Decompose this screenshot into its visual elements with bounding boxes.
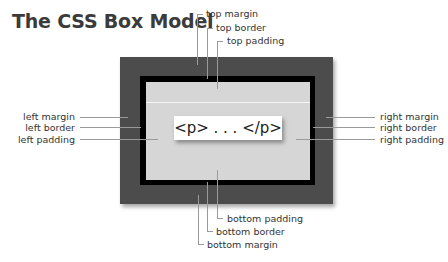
- padding-highlight-line: [146, 102, 310, 103]
- bottom-border-leader-h: [207, 231, 213, 232]
- label-left-padding: left padding: [18, 134, 75, 145]
- left-border-leader: [80, 127, 141, 128]
- top-border-leader-v: [207, 28, 208, 79]
- left-margin-leader: [80, 117, 128, 118]
- bottom-padding-leader-h: [217, 218, 223, 219]
- bottom-margin-leader-v: [198, 195, 199, 245]
- label-top-border: top border: [216, 22, 266, 33]
- label-right-padding: right padding: [380, 134, 444, 145]
- label-top-padding: top padding: [227, 35, 284, 46]
- top-margin-leader-v: [197, 14, 198, 65]
- left-padding-leader: [80, 139, 158, 140]
- right-padding-leader: [296, 139, 375, 140]
- right-border-leader: [313, 127, 375, 128]
- label-left-margin: left margin: [23, 111, 75, 122]
- label-left-border: left border: [25, 122, 75, 133]
- content-text: <p> . . . </p>: [174, 119, 282, 137]
- label-bottom-border: bottom border: [216, 226, 285, 237]
- content-element: <p> . . . </p>: [174, 116, 282, 140]
- bottom-padding-leader-v: [217, 170, 218, 219]
- top-padding-leader-v: [217, 41, 218, 89]
- label-right-border: right border: [380, 122, 437, 133]
- label-right-margin: right margin: [380, 111, 439, 122]
- label-bottom-margin: bottom margin: [207, 239, 278, 250]
- bottom-margin-leader-h: [198, 244, 204, 245]
- label-top-margin: top margin: [206, 8, 258, 19]
- label-bottom-padding: bottom padding: [227, 213, 303, 224]
- bottom-border-leader-v: [207, 182, 208, 232]
- diagram-title: The CSS Box Model: [12, 10, 213, 32]
- right-margin-leader: [326, 117, 375, 118]
